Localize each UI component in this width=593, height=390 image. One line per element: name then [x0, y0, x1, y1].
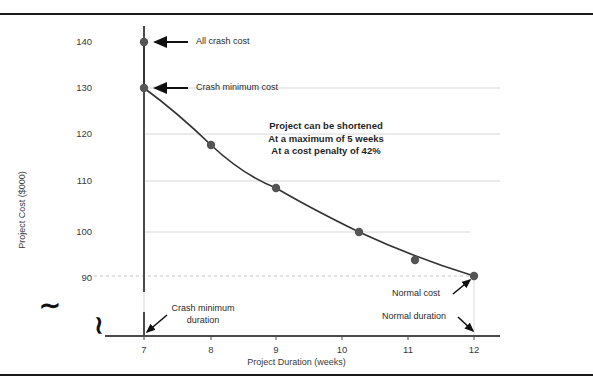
annotation-crash-minimum-duration: Crash minimum duration [148, 303, 258, 326]
callout-line-2: At a maximum of 5 weeks [268, 133, 384, 144]
y-tick-140: 140 [58, 36, 92, 47]
callout-line-3: At a cost penalty of 42% [271, 145, 380, 156]
crash-min-duration-line1: Crash minimum [171, 303, 234, 313]
arrow-normal-cost [453, 280, 470, 294]
x-tick-12: 12 [459, 344, 489, 355]
marker-crash-minimum-cost [140, 84, 148, 92]
y-tick-130: 130 [58, 82, 92, 93]
crash-min-duration-line2: duration [187, 315, 220, 325]
x-axis-break-icon: ∼ [87, 315, 112, 336]
marker-week-8 [207, 141, 215, 149]
y-tick-120: 120 [58, 128, 92, 139]
y-tick-90: 90 [58, 272, 92, 283]
annotation-normal-cost: Normal cost [392, 288, 440, 300]
data-point-markers [140, 38, 478, 280]
marker-normal-cost [470, 272, 478, 280]
y-tick-110: 110 [58, 175, 92, 186]
x-tick-10: 10 [327, 344, 357, 355]
x-tick-11: 11 [393, 344, 423, 355]
x-tick-7: 7 [129, 344, 159, 355]
marker-all-crash-cost [140, 38, 148, 46]
x-tick-8: 8 [196, 344, 226, 355]
marker-week-9 [272, 184, 280, 192]
chart-page: ∼ ∼ 140 130 120 110 100 90 7 8 9 10 11 1… [0, 0, 593, 390]
y-axis-label: Project Cost ($000) [17, 150, 27, 270]
annotation-all-crash-cost: All crash cost [196, 36, 250, 48]
x-tick-9: 9 [261, 344, 291, 355]
y-tick-100: 100 [58, 226, 92, 237]
annotation-crash-minimum-cost: Crash minimum cost [196, 82, 278, 94]
gridlines [144, 88, 500, 232]
cost-curve [144, 88, 474, 276]
callout-line-1: Project can be shortened [269, 120, 383, 131]
y-axis-break-icon: ∼ [39, 292, 61, 318]
x-axis-label: Project Duration (weeks) [0, 357, 593, 367]
callout-summary-text: Project can be shortened At a maximum of… [246, 120, 406, 158]
marker-week-10 [355, 228, 363, 236]
arrow-normal-duration [458, 317, 473, 331]
annotation-normal-duration: Normal duration [382, 311, 446, 323]
marker-week-11 [411, 256, 419, 264]
